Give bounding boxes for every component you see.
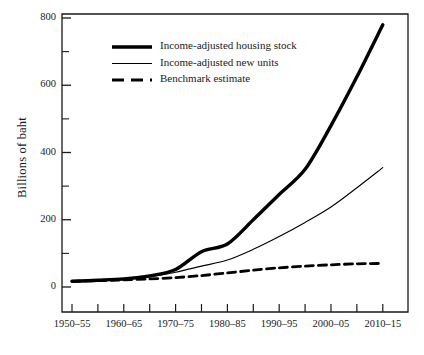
chart-figure: Billions of baht 0200400600800 1950–5519… bbox=[0, 0, 424, 355]
y-tick-label: 600 bbox=[20, 78, 56, 89]
legend-label-0: Income-adjusted housing stock bbox=[160, 39, 297, 51]
y-tick-label: 800 bbox=[20, 11, 56, 22]
legend-layer bbox=[112, 47, 152, 80]
x-tick-label: 2010–15 bbox=[353, 318, 413, 329]
legend-label-2: Benchmark estimate bbox=[160, 72, 250, 84]
y-tick-label: 0 bbox=[20, 280, 56, 291]
y-tick-label: 400 bbox=[20, 146, 56, 157]
y-tick-label: 200 bbox=[20, 213, 56, 224]
chart-plot-area bbox=[0, 0, 424, 355]
legend-label-1: Income-adjusted new units bbox=[160, 56, 279, 68]
